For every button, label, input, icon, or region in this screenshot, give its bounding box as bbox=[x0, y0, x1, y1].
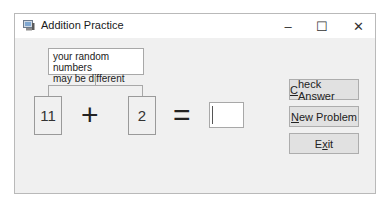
answer-input[interactable] bbox=[209, 102, 244, 128]
plus-sign: + bbox=[81, 100, 99, 130]
first-number-box: 11 bbox=[34, 96, 62, 135]
exit-button[interactable]: Exit bbox=[289, 133, 359, 154]
title-bar[interactable]: Addition Practice – ☐ ✕ bbox=[15, 14, 375, 38]
exit-label-start: E bbox=[315, 138, 322, 150]
close-button[interactable]: ✕ bbox=[341, 14, 375, 38]
random-numbers-callout: your random numbers may be different bbox=[48, 48, 144, 75]
callout-connector-left bbox=[48, 85, 49, 96]
new-problem-button[interactable]: New Problem bbox=[289, 106, 359, 127]
app-window: Addition Practice – ☐ ✕ your random numb… bbox=[14, 13, 376, 194]
minimize-button[interactable]: – bbox=[271, 14, 305, 38]
maximize-button[interactable]: ☐ bbox=[305, 14, 339, 38]
equals-sign: = bbox=[173, 100, 191, 130]
check-answer-label: heck Answer bbox=[298, 78, 358, 102]
new-problem-label: ew Problem bbox=[299, 111, 357, 123]
close-icon: ✕ bbox=[353, 19, 364, 34]
maximize-icon: ☐ bbox=[316, 19, 328, 34]
window-title: Addition Practice bbox=[41, 19, 124, 31]
check-answer-button[interactable]: Check Answer bbox=[289, 79, 359, 100]
text-caret bbox=[212, 106, 213, 124]
second-number-box: 2 bbox=[128, 96, 156, 135]
new-problem-mnemonic: N bbox=[291, 111, 299, 123]
callout-connector-vertical bbox=[95, 75, 96, 85]
callout-line-1: your random numbers bbox=[53, 51, 139, 73]
exit-label-end: it bbox=[328, 138, 334, 150]
minimize-icon: – bbox=[284, 19, 291, 34]
callout-connector-horizontal bbox=[48, 85, 143, 86]
callout-line-2: may be different bbox=[53, 73, 139, 84]
callout-connector-right bbox=[142, 85, 143, 96]
first-number: 11 bbox=[40, 107, 56, 124]
app-icon bbox=[23, 20, 35, 31]
check-answer-mnemonic: C bbox=[290, 84, 298, 96]
form-client-area: your random numbers may be different 11 … bbox=[15, 38, 375, 193]
second-number: 2 bbox=[138, 107, 146, 124]
